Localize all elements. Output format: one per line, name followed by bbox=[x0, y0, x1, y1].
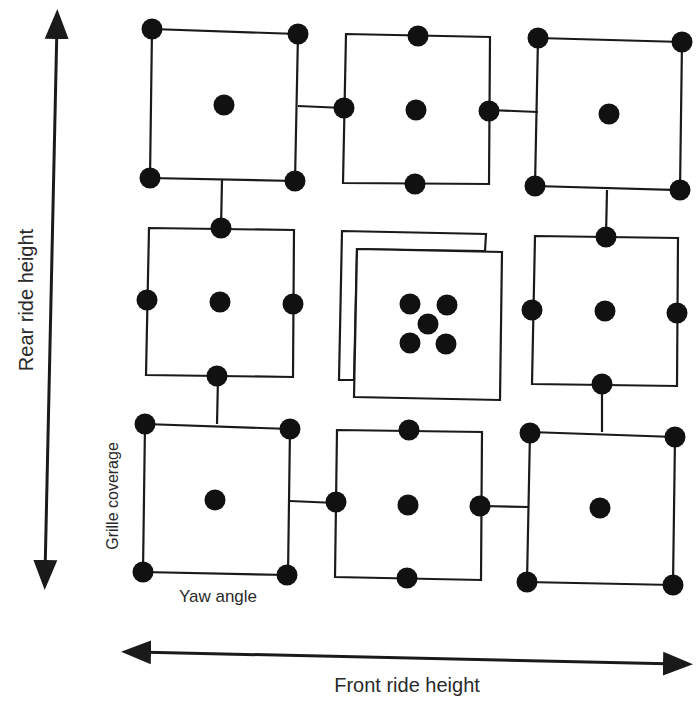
cell-points-r2c1 bbox=[326, 420, 491, 589]
front-ride-height-axis bbox=[136, 652, 678, 664]
design-of-experiments-diagram: Rear ride height Front ride height Grill… bbox=[0, 0, 698, 706]
cell-points-r1c2 bbox=[522, 227, 688, 395]
cell-points-r2c2 bbox=[517, 423, 686, 596]
yaw-angle-label: Yaw angle bbox=[179, 587, 257, 606]
rear-ride-height-axis bbox=[45, 24, 57, 575]
cell-points-r0c1 bbox=[334, 26, 500, 195]
cell-points-r0c0 bbox=[140, 19, 309, 192]
grille-coverage-label: Grille coverage bbox=[104, 442, 121, 550]
rear-ride-height-label: Rear ride height bbox=[15, 228, 37, 371]
cell-points-r2c0 bbox=[133, 414, 301, 586]
cell-points-r1c0 bbox=[137, 218, 304, 387]
front-ride-height-label: Front ride height bbox=[334, 674, 480, 696]
cell-points-r0c2 bbox=[525, 28, 693, 201]
